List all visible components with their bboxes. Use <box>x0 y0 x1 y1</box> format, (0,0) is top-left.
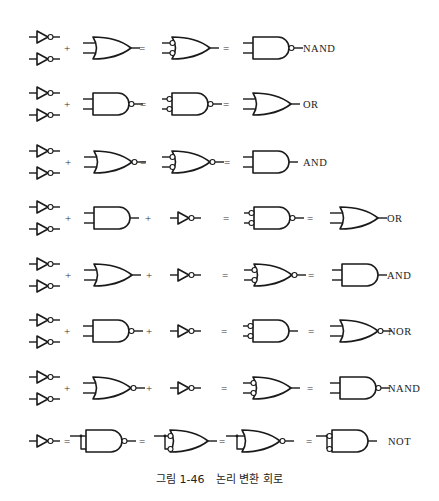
figure-caption: 그림 1-46 논리 변환 회로 <box>0 470 439 486</box>
plus-operator: + <box>64 98 70 110</box>
plus-operator: + <box>65 212 71 224</box>
inverter-pair <box>29 201 60 235</box>
result-label: OR <box>303 99 319 110</box>
not-gate-icon <box>170 269 201 281</box>
not-gate-icon <box>29 258 60 270</box>
result-label: NAND <box>388 383 420 394</box>
plus-operator: + <box>64 325 70 337</box>
or-gate-icon <box>330 207 387 229</box>
caption-number: 그림 1-46 <box>156 473 204 486</box>
equals-operator: = <box>140 156 146 168</box>
equivalence-row-2: +==OR <box>29 87 319 121</box>
equals-operator: = <box>139 435 145 447</box>
or-gate-icon <box>84 264 141 286</box>
not-gate-icon <box>29 109 60 121</box>
not-gate-icon <box>170 382 201 394</box>
or-gate-icon <box>243 93 300 115</box>
not-gate-icon <box>170 325 201 337</box>
plus-operator: + <box>146 382 152 394</box>
equivalence-row-7: ++==NAND <box>29 371 420 405</box>
equals-operator: = <box>308 269 314 281</box>
and-gate-icon <box>84 207 139 229</box>
or-inverted-inputs-gate-icon <box>154 430 217 452</box>
not-gate-icon <box>29 280 60 292</box>
nand-gate-icon <box>70 430 136 452</box>
inverter-pair <box>29 145 60 179</box>
equals-operator: = <box>307 212 313 224</box>
not-gate-icon <box>29 336 60 348</box>
equals-operator: = <box>223 98 229 110</box>
not-gate-icon <box>29 31 60 43</box>
not-gate-icon <box>29 223 60 235</box>
equals-operator: = <box>219 435 225 447</box>
equivalence-row-6: ++==NOR <box>29 314 412 348</box>
equivalence-row-1: +==NAND <box>29 31 335 65</box>
equals-operator: = <box>222 269 228 281</box>
result-label: NAND <box>303 43 335 54</box>
nand-gate-icon <box>243 37 303 59</box>
nand-gate-icon <box>83 320 143 342</box>
result-label: AND <box>387 270 411 281</box>
not-gate-icon <box>29 393 60 405</box>
result-label: AND <box>303 157 327 168</box>
not-gate-icon <box>29 87 60 99</box>
equals-operator: = <box>223 212 229 224</box>
equals-operator: = <box>140 98 146 110</box>
inverter-pair <box>29 314 60 348</box>
inverter-pair <box>29 258 60 292</box>
plus-operator: + <box>65 269 71 281</box>
equivalence-row-5: ++==AND <box>29 258 411 292</box>
not-gate-icon <box>29 201 60 213</box>
nor-gate-icon <box>83 377 145 399</box>
equals-operator: = <box>139 42 145 54</box>
caption-title: 논리 변환 회로 <box>216 473 283 486</box>
and-gate-icon <box>332 264 387 286</box>
plus-operator: + <box>65 156 71 168</box>
equivalence-row-3: +==AND <box>29 145 327 179</box>
equals-operator: = <box>224 156 230 168</box>
equals-operator: = <box>221 382 227 394</box>
nor-gate-icon <box>226 430 294 452</box>
nand-inverted-inputs-gate-icon <box>162 93 222 115</box>
equals-operator: = <box>308 325 314 337</box>
equivalence-row-4: ++==OR <box>29 201 403 235</box>
equals-operator: = <box>64 435 70 447</box>
inverter-pair <box>29 371 60 405</box>
nor-inverted-inputs-gate-icon <box>244 264 306 286</box>
equals-operator: = <box>223 42 229 54</box>
plus-operator: + <box>145 212 151 224</box>
plus-operator: + <box>146 269 152 281</box>
nor-inverted-inputs-gate-icon <box>162 151 224 173</box>
and-inverted-inputs-gate-icon <box>316 430 377 452</box>
nor-gate-icon <box>84 151 146 173</box>
or-gate-icon <box>83 37 140 59</box>
equals-operator: = <box>307 382 313 394</box>
inverter-pair <box>29 31 60 65</box>
nor-gate-icon <box>330 320 392 342</box>
not-gate-icon <box>29 371 60 383</box>
not-gate-icon <box>29 145 60 157</box>
nand-gate-icon <box>83 93 143 115</box>
inverter-pair <box>29 87 60 121</box>
not-gate-icon <box>29 314 60 326</box>
nand-gate-icon <box>330 377 390 399</box>
plus-operator: + <box>64 382 70 394</box>
result-label: NOT <box>388 436 411 447</box>
not-gate-icon <box>170 212 201 224</box>
or-inverted-inputs-gate-icon <box>162 37 219 59</box>
result-label: OR <box>387 213 403 224</box>
or-inverted-inputs-gate-icon <box>243 377 300 399</box>
not-gate-icon <box>29 167 60 179</box>
equals-operator: = <box>306 435 312 447</box>
plus-operator: + <box>64 42 70 54</box>
not-gate-icon <box>29 53 60 65</box>
not-gate-icon <box>29 435 60 447</box>
result-label: NOR <box>388 326 412 337</box>
plus-operator: + <box>146 325 152 337</box>
equivalence-row-8: ====NOT <box>29 430 411 452</box>
nand-inverted-inputs-gate-icon <box>244 207 304 229</box>
and-inverted-inputs-gate-icon <box>243 320 298 342</box>
logic-conversion-diagram: +==NAND+==OR+==AND++==OR++==AND++==NOR++… <box>0 0 439 501</box>
equals-operator: = <box>221 325 227 337</box>
and-gate-icon <box>243 151 298 173</box>
